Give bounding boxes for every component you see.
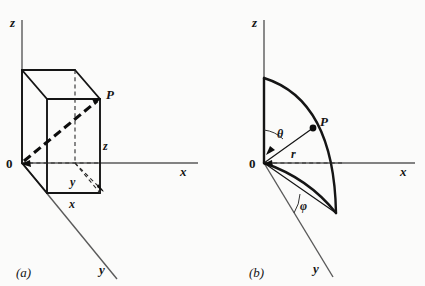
panel-a-z-coordinate-label: z [102,139,108,153]
panel-a-z-axis-label: z [9,15,16,30]
panel-a-x-coordinate-label: x [68,197,75,211]
panel-a-y-coordinate-label: y [68,175,76,189]
panel-b-origin-label: 0 [249,156,256,171]
panel-b-group: z x y 0 P θ r φ (b) [249,15,415,280]
panel-b-x-axis-label: x [399,164,407,179]
panel-b-theta-arrowhead [266,146,275,155]
panel-a-top-right-slant [75,70,100,99]
panel-b-theta-label: θ [277,127,284,141]
panel-b-point-p-marker [310,125,317,132]
figure-canvas: z x y 0 P z y x (a) [0,0,425,286]
panel-a-caption: (a) [16,265,31,280]
panel-b-meridian-arc [264,78,336,213]
panel-b-radius-line [264,128,313,163]
panel-b-y-axis-label: y [311,261,319,276]
panel-a-origin-label: 0 [6,156,13,171]
panel-b-phi-label: φ [300,199,307,213]
panel-b-point-p-label: P [320,114,329,129]
panel-a-position-vector [24,101,97,161]
panel-a-y-axis-label: y [97,262,105,277]
panel-a-x-axis-label: x [179,164,187,179]
panel-b-radius-label: r [291,147,296,161]
coordinate-systems-diagram: z x y 0 P z y x (a) [0,0,425,286]
panel-a-bottom-left-slant [22,163,47,193]
panel-a-group: z x y 0 P z y x (a) [6,15,198,280]
panel-a-point-p-label: P [106,87,115,102]
panel-b-z-axis-label: z [251,15,258,30]
panel-b-caption: (b) [249,265,264,280]
panel-a-hidden-bottom-right-slant [75,163,100,193]
